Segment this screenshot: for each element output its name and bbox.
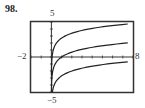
axes	[31, 22, 133, 92]
graph-plot	[0, 0, 145, 108]
curve-1	[51, 43, 127, 92]
curves	[51, 24, 127, 92]
curve-0	[51, 24, 127, 75]
curve-2	[52, 62, 127, 92]
